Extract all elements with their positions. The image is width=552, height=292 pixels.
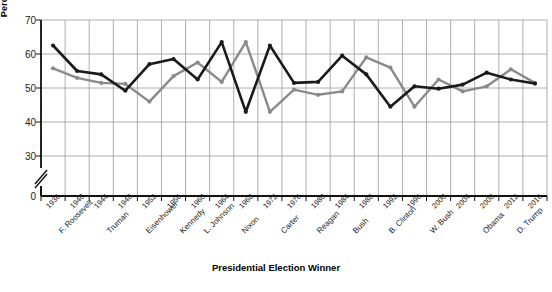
plot-background	[41, 20, 547, 196]
black-series-point	[364, 72, 368, 76]
black-series-point	[509, 77, 513, 81]
gray-series-point	[196, 60, 200, 64]
black-series-point	[171, 57, 175, 61]
gray-series-point	[485, 84, 489, 88]
gray-series-point	[147, 100, 151, 104]
gray-series-point	[292, 88, 296, 92]
gray-series-point	[51, 66, 55, 70]
black-series-point	[292, 81, 296, 85]
gray-series-point	[99, 81, 103, 85]
black-series-point	[388, 105, 392, 109]
black-series-point	[461, 83, 465, 87]
black-series-point	[75, 69, 79, 73]
gray-series-point	[340, 89, 344, 93]
black-series-point	[268, 43, 272, 47]
black-series-point	[316, 80, 320, 84]
gray-series-point	[436, 77, 440, 81]
black-series-point	[533, 81, 537, 85]
black-series-point	[99, 72, 103, 76]
gray-series-point	[388, 66, 392, 70]
gray-series-point	[509, 67, 513, 71]
gray-series-point	[123, 82, 127, 86]
gray-series-point	[412, 105, 416, 109]
black-series-point	[485, 71, 489, 75]
gray-series-point	[244, 40, 248, 44]
black-series-point	[51, 43, 55, 47]
black-series-point	[147, 62, 151, 66]
black-series-point	[340, 54, 344, 58]
black-series-point	[436, 87, 440, 91]
plot-area	[0, 0, 552, 292]
black-series-point	[244, 110, 248, 114]
black-series-point	[196, 77, 200, 81]
gray-series-point	[220, 80, 224, 84]
x-axis-title: Presidential Election Winner	[0, 262, 552, 273]
gray-series-point	[268, 110, 272, 114]
black-series-point	[220, 40, 224, 44]
black-series-point	[412, 84, 416, 88]
gray-series-point	[316, 93, 320, 97]
gray-series-point	[171, 74, 175, 78]
gray-series-point	[364, 55, 368, 59]
gray-series-point	[461, 89, 465, 93]
chart-container: Percentage 70 60 50 40 30 0 193619401944…	[0, 0, 552, 292]
gray-series-point	[75, 76, 79, 80]
black-series-point	[123, 89, 127, 93]
